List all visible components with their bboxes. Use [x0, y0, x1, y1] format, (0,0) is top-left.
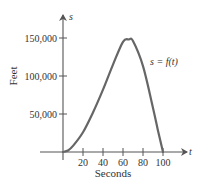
- x-axis-title: Seconds: [95, 167, 132, 179]
- y-tick-label: 100,000: [25, 71, 58, 82]
- x-ticks: 20406080100: [78, 148, 171, 168]
- y-axis-variable: s: [69, 11, 73, 22]
- y-axis-title: Feet: [7, 67, 19, 86]
- x-tick-label: 100: [156, 157, 171, 168]
- chart-canvas: 50,000100,000150,000 20406080100 s t s =…: [0, 0, 202, 191]
- x-tick-label: 80: [138, 157, 148, 168]
- y-ticks: 50,000100,000150,000: [25, 33, 68, 120]
- x-axis-variable: t: [189, 146, 192, 157]
- curve-s-f-t: [63, 39, 163, 152]
- x-tick-label: 20: [78, 157, 88, 168]
- curve-label: s = f(t): [150, 56, 179, 68]
- y-tick-label: 50,000: [30, 109, 58, 120]
- y-tick-label: 150,000: [25, 33, 58, 44]
